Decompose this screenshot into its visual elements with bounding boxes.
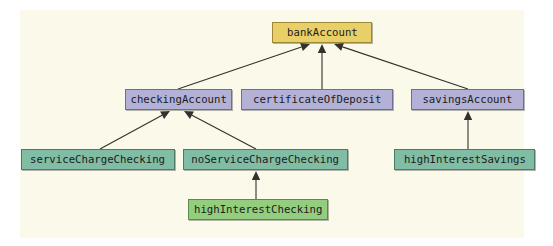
class-node-label: bankAccount bbox=[284, 27, 360, 38]
class-node-highInterestSavings[interactable]: highInterestSavings bbox=[394, 149, 535, 170]
class-node-label: highInterestSavings bbox=[401, 154, 529, 165]
class-node-checkingAccount[interactable]: checkingAccount bbox=[125, 89, 232, 110]
class-node-label: highInterestChecking bbox=[191, 204, 325, 215]
class-diagram: bankAccountcheckingAccountcertificateOfD… bbox=[0, 0, 553, 246]
class-node-label: noServiceChargeChecking bbox=[189, 154, 343, 165]
class-node-label: certificateOfDeposit bbox=[250, 94, 384, 105]
class-node-certificateOfDeposit[interactable]: certificateOfDeposit bbox=[241, 89, 393, 110]
class-node-label: serviceChargeChecking bbox=[28, 154, 169, 165]
class-node-savingsAccount[interactable]: savingsAccount bbox=[411, 89, 524, 110]
class-node-label: savingsAccount bbox=[420, 94, 516, 105]
class-node-noServiceChargeChecking[interactable]: noServiceChargeChecking bbox=[183, 149, 348, 170]
class-node-bankAccount[interactable]: bankAccount bbox=[272, 22, 372, 43]
class-node-serviceChargeChecking[interactable]: serviceChargeChecking bbox=[21, 149, 175, 170]
class-node-highInterestChecking[interactable]: highInterestChecking bbox=[188, 199, 328, 220]
class-node-label: checkingAccount bbox=[127, 94, 229, 105]
